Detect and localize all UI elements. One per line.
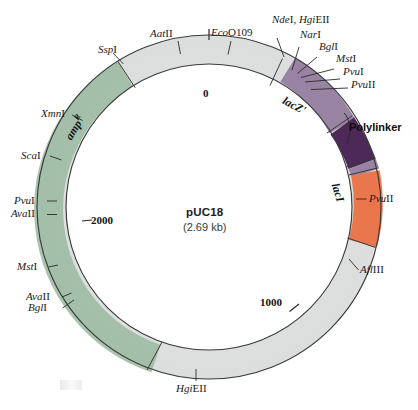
site-label-pvui-top: PvuI [343,66,364,77]
site-label-msti-top: MstI [336,53,356,64]
site-label-ecoo109: EcoO109 [211,27,253,38]
site-label-xmni: XmnI [41,108,65,119]
scan-artifact [60,380,82,390]
site-label-sspi: SspI [98,44,117,55]
plasmid-size: (2.69 kb) [183,221,226,233]
site-label-hgieii-bottom: HgiEII [176,383,207,394]
site-label-bgli-left: BglI [28,302,47,313]
site-label-pvui-left: PvuI [14,195,35,206]
site-label-nari: NarI [300,29,321,40]
site-label-pvuii-top: PvuII [351,79,375,90]
site-label-scai: ScaI [21,150,41,161]
site-label-msti-left: MstI [17,261,37,272]
site-label-aflii: AflIII [360,264,384,275]
scale-tick-0: 0 [203,87,209,99]
site-label-pvuii-right: PvuII [369,193,393,204]
plasmid-name: pUC18 [186,206,223,218]
site-label-ndei-hgieii: NdeI, HgiEII [272,14,329,25]
segment-label-polylinker: Polylinker [349,121,402,133]
scale-tick-1000: 1000 [260,296,282,308]
site-label-aatii: AatII [150,28,173,39]
scale-tick-2000: 2000 [91,214,113,226]
site-label-bgli-top: BglI [319,41,338,52]
site-label-avaii-upper: AvaII [11,208,35,219]
